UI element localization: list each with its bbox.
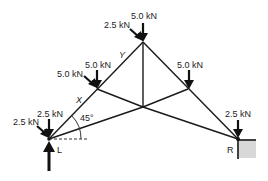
member-left-rafter — [49, 42, 143, 139]
apex-inclined-load-label: 2.5 kN — [104, 20, 130, 30]
member-label-y: Y — [119, 50, 126, 60]
truss-members — [49, 42, 238, 139]
left-upper-inclined-load-label: 5.0 kN — [57, 69, 83, 79]
right-support-vertical-arrowhead — [233, 129, 243, 138]
member-right-rafter — [143, 42, 238, 139]
left-support-loads: 2.5 kN 2.5 kN — [13, 109, 63, 138]
left-reaction — [43, 141, 55, 171]
support-shading — [239, 141, 256, 158]
left-reaction-arrowhead — [43, 141, 55, 152]
left-upper-loads: 5.0 kN 5.0 kN — [57, 60, 111, 89]
member-left-tie — [49, 107, 143, 139]
right-support — [238, 140, 256, 159]
member-right-tie — [143, 107, 238, 139]
apex-loads: 5.0 kN 2.5 kN — [104, 11, 157, 42]
left-support-inclined-load-label: 2.5 kN — [13, 117, 39, 127]
member-left-strut — [97, 89, 143, 107]
joint-r — [236, 137, 240, 141]
member-right-strut — [143, 89, 188, 107]
truss-diagram: 45° X Y 5.0 kN 2.5 kN 5.0 kN 5.0 kN 5.0 … — [0, 0, 268, 181]
right-support-loads: 2.5 kN — [225, 109, 251, 138]
apex-vertical-load-label: 5.0 kN — [131, 11, 157, 21]
member-label-x: X — [75, 95, 83, 105]
right-support-vertical-load-label: 2.5 kN — [225, 109, 251, 119]
support-label-l: L — [57, 145, 62, 155]
support-label-r: R — [227, 145, 234, 155]
left-support-vertical-load-label: 2.5 kN — [37, 109, 63, 119]
joint-l — [47, 137, 51, 141]
right-upper-vertical-load-label: 5.0 kN — [177, 60, 203, 70]
right-upper-loads: 5.0 kN — [177, 60, 203, 89]
angle-label: 45° — [80, 113, 94, 123]
left-upper-vertical-load-label: 5.0 kN — [85, 60, 111, 70]
